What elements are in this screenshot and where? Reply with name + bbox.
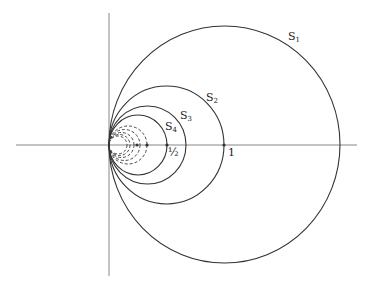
label-s2-sub: 2 (214, 97, 218, 105)
label-s3-text: S (180, 109, 188, 122)
tick-label-one: 1 (228, 147, 235, 158)
label-s4-text: S (165, 120, 173, 133)
label-s4-sub: 4 (173, 126, 177, 134)
point-1 (222, 143, 225, 146)
label-s3-sub: 3 (188, 115, 192, 123)
label-s2: S2 (206, 92, 218, 105)
label-s1-sub: 1 (296, 36, 300, 44)
point-4 (145, 143, 148, 146)
label-s2-text: S (206, 91, 214, 104)
point-3 (135, 143, 138, 146)
tick-label-half: ½ (168, 147, 179, 158)
diagram-svg (0, 0, 372, 289)
label-s1: S1 (288, 31, 300, 44)
label-s1-text: S (288, 30, 296, 43)
tangent-circles-diagram: S1 S2 S3 S4 ½ 1 (0, 0, 372, 289)
label-s3: S3 (180, 110, 192, 123)
label-s4: S4 (165, 121, 177, 134)
